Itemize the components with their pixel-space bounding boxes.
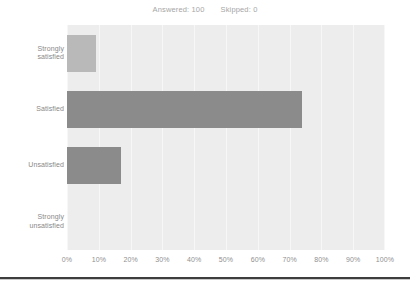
bar-unsatisfied[interactable] [67, 147, 121, 184]
y-axis-label-line: satisfied [4, 53, 64, 62]
x-tick-10%: 10% [92, 256, 106, 263]
survey-results-chart-card: Answered: 100Skipped: 0 Stronglysatisfie… [0, 0, 410, 291]
x-tick-100%: 100% [376, 256, 394, 263]
answered-count: Answered: 100 [153, 5, 205, 14]
bar-row[interactable] [67, 203, 385, 240]
y-axis-label-line: Unsatisfied [4, 161, 64, 170]
y-axis-label-satisfied: Satisfied [4, 105, 64, 114]
x-tick-90%: 90% [346, 256, 360, 263]
x-tick-70%: 70% [282, 256, 296, 263]
x-tick-30%: 30% [155, 256, 169, 263]
bar-row[interactable] [67, 147, 385, 184]
x-tick-80%: 80% [314, 256, 328, 263]
y-axis-label-strongly-satisfied: Stronglysatisfied [4, 45, 64, 62]
x-tick-50%: 50% [219, 256, 233, 263]
x-tick-20%: 20% [123, 256, 137, 263]
bottom-divider-shadow [0, 279, 410, 280]
x-tick-40%: 40% [187, 256, 201, 263]
x-tick-60%: 60% [251, 256, 265, 263]
y-axis-label-unsatisfied: Unsatisfied [4, 161, 64, 170]
y-axis-label-line: Strongly [4, 213, 64, 222]
plot-area [67, 25, 385, 250]
chart-plot-region: StronglysatisfiedSatisfiedUnsatisfiedStr… [0, 22, 410, 272]
bar-strongly-satisfied[interactable] [67, 35, 96, 72]
bar-satisfied[interactable] [67, 91, 302, 128]
skipped-count: Skipped: 0 [221, 5, 258, 14]
y-axis-label-strongly-unsatisfied: Stronglyunsatisfied [4, 213, 64, 230]
y-axis-label-line: Strongly [4, 45, 64, 54]
x-axis-tick-labels: 0%10%20%30%40%50%60%70%80%90%100% [67, 250, 385, 270]
y-axis-label-line: Satisfied [4, 105, 64, 114]
y-axis-label-line: unsatisfied [4, 222, 64, 231]
chart-response-summary: Answered: 100Skipped: 0 [0, 5, 410, 14]
bar-series [67, 25, 385, 250]
bar-row[interactable] [67, 35, 385, 72]
bar-row[interactable] [67, 91, 385, 128]
x-tick-0%: 0% [62, 256, 72, 263]
y-axis-category-labels: StronglysatisfiedSatisfiedUnsatisfiedStr… [4, 25, 64, 250]
